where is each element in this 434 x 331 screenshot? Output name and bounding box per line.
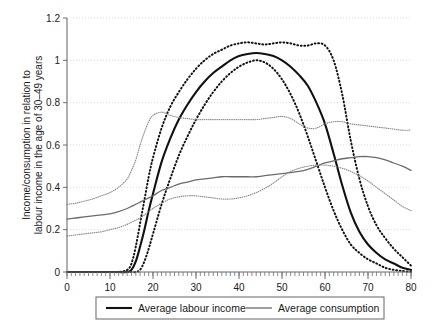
series-line-average-consumption (67, 157, 411, 220)
x-tick-label: 70 (362, 282, 374, 293)
chart-figure: 00.20.40.60.811.201020304050607080Income… (0, 0, 434, 331)
series-line-average-consumption-lower-bound (67, 165, 411, 236)
y-tick-label: 1 (54, 55, 60, 66)
chart-canvas: 00.20.40.60.811.201020304050607080Income… (0, 0, 434, 331)
series-group (67, 42, 411, 272)
y-axis-title-line-1: Income/consumption in relation to (21, 70, 32, 220)
y-tick-label: 0.6 (46, 140, 60, 151)
y-tick-label: 0.8 (46, 97, 60, 108)
y-axis-title: Income/consumption in relation tolabour … (21, 56, 44, 234)
legend-label: Average labour income (138, 302, 246, 314)
y-tick-label: 0 (54, 267, 60, 278)
x-tick-label: 20 (147, 282, 159, 293)
series-line-average-labour-income-lower-bound (67, 60, 411, 272)
x-tick-label: 80 (405, 282, 417, 293)
x-tick-label: 40 (233, 282, 245, 293)
y-axis-title-line-2: labour income in the age of 30–49 years (33, 56, 44, 234)
x-tick-label: 10 (104, 282, 116, 293)
series-line-average-consumption-upper-bound (67, 112, 411, 204)
legend: Average labour incomeAverage consumption (96, 297, 384, 319)
y-axis-ticks: 00.20.40.60.811.2 (46, 13, 67, 278)
y-tick-label: 0.2 (46, 224, 60, 235)
y-tick-label: 0.4 (46, 182, 60, 193)
x-tick-label: 50 (276, 282, 288, 293)
x-tick-label: 0 (64, 282, 70, 293)
x-tick-label: 30 (190, 282, 202, 293)
legend-label: Average consumption (278, 302, 380, 314)
series-line-average-labour-income (67, 53, 411, 272)
x-tick-label: 60 (319, 282, 331, 293)
y-tick-label: 1.2 (46, 13, 60, 24)
